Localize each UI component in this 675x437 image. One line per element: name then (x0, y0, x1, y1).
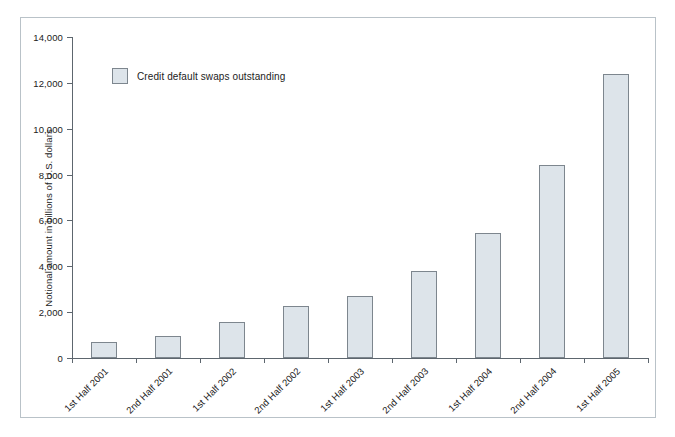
bar (603, 74, 629, 358)
y-axis-tick-label: 12,000 (33, 77, 63, 88)
bar (347, 296, 373, 358)
x-axis-line (72, 358, 649, 359)
x-axis-tick (136, 358, 137, 363)
bar (411, 271, 437, 358)
y-axis-tick-label: 4,000 (39, 261, 63, 272)
y-axis-tick-label: 2,000 (39, 307, 63, 318)
bar (283, 306, 309, 358)
x-axis-tick (264, 358, 265, 363)
y-axis-tick-label: 8,000 (39, 169, 63, 180)
x-axis-tick (584, 358, 585, 363)
x-axis-tick (520, 358, 521, 363)
x-axis-tick (328, 358, 329, 363)
bar (155, 336, 181, 358)
y-axis-tick-label: 14,000 (33, 32, 63, 43)
bar (539, 165, 565, 358)
bar (91, 342, 117, 358)
bar (475, 233, 501, 358)
y-axis-tick-label: 0 (58, 353, 63, 364)
x-axis-tick (72, 358, 73, 363)
bar (219, 322, 245, 358)
x-axis-tick (200, 358, 201, 363)
x-axis-tick (456, 358, 457, 363)
x-axis-tick (648, 358, 649, 363)
y-axis-tick-label: 6,000 (39, 215, 63, 226)
x-axis-tick (392, 358, 393, 363)
y-axis-tick-label: 10,000 (33, 123, 63, 134)
plot-area (72, 37, 648, 358)
